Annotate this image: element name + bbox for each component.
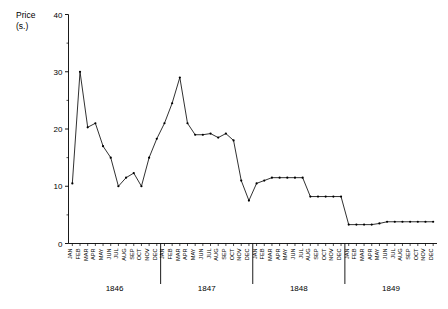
x-axis-year-label: 1846 xyxy=(106,284,124,293)
x-tick-label-month: OCT xyxy=(136,248,142,260)
x-tick-label-month: NOV xyxy=(420,248,426,260)
x-tick-label-month: APR xyxy=(90,249,96,261)
data-point xyxy=(232,139,234,141)
x-tick-label-month: JUN xyxy=(106,249,112,260)
data-point xyxy=(133,172,135,174)
data-point xyxy=(325,195,327,197)
x-axis-year-label: 1849 xyxy=(382,284,400,293)
x-tick-label-month: AUG xyxy=(397,249,403,261)
x-tick-label-month: AUG xyxy=(121,249,127,261)
data-point xyxy=(371,224,373,226)
data-point xyxy=(156,138,158,140)
data-point xyxy=(209,132,211,134)
x-tick-label-month: DEC xyxy=(428,249,434,261)
data-point xyxy=(179,76,181,78)
x-tick-label-month: JUN xyxy=(382,249,388,260)
x-tick-label-month: MAY xyxy=(190,248,196,260)
data-point xyxy=(87,126,89,128)
x-tick-label-month: SEP xyxy=(221,248,227,259)
x-tick-label-month: OCT xyxy=(321,248,327,260)
data-point xyxy=(148,157,150,159)
x-tick-label-month: AUG xyxy=(305,249,311,261)
x-tick-label-month: DEC xyxy=(336,249,342,261)
data-point xyxy=(340,195,342,197)
x-tick-label-month: APR xyxy=(275,249,281,261)
data-point xyxy=(102,145,104,147)
data-point xyxy=(217,136,219,138)
x-tick-label-month: JUL xyxy=(206,249,212,259)
price-line xyxy=(72,72,433,225)
data-point xyxy=(286,177,288,179)
x-tick-label-month: JUN xyxy=(290,249,296,260)
data-point xyxy=(432,221,434,223)
data-point xyxy=(309,195,311,197)
x-tick-label-month: JUL xyxy=(390,249,396,259)
data-point xyxy=(194,134,196,136)
x-tick-label-month: FEB xyxy=(259,248,265,259)
line-chart-plot: 010203040 JANFEBMARAPRMAYJUNJULAUGSEPOCT… xyxy=(0,0,448,309)
x-tick-label-month: SEP xyxy=(313,248,319,259)
data-point xyxy=(386,221,388,223)
x-tick-label-month: MAR xyxy=(175,249,181,261)
data-point xyxy=(294,177,296,179)
y-tick-label: 0 xyxy=(58,240,63,249)
x-tick-label-month: MAY xyxy=(374,248,380,260)
x-tick-label-month: NOV xyxy=(328,248,334,260)
data-point xyxy=(409,221,411,223)
data-point xyxy=(225,132,227,134)
chart-figure: Price (s.) 010203040 JANFEBMARAPRMAYJUNJ… xyxy=(0,0,448,309)
x-tick-label-month: AUG xyxy=(213,249,219,261)
data-point xyxy=(348,224,350,226)
x-tick-label-month: MAY xyxy=(98,248,104,260)
x-tick-label-month: APR xyxy=(367,249,373,261)
data-point xyxy=(378,222,380,224)
data-point xyxy=(240,179,242,181)
x-tick-label-month: JAN xyxy=(67,249,73,260)
data-point xyxy=(317,195,319,197)
data-point xyxy=(171,102,173,104)
x-axis-year-label: 1848 xyxy=(290,284,308,293)
x-tick-label-month: OCT xyxy=(413,248,419,260)
x-tick-label-month: DEC xyxy=(152,249,158,261)
data-point xyxy=(355,224,357,226)
x-tick-label-month: MAR xyxy=(267,249,273,261)
x-tick-label-month: JUN xyxy=(198,249,204,260)
x-tick-label-month: MAR xyxy=(359,249,365,261)
data-point xyxy=(140,185,142,187)
x-tick-label-month: JUL xyxy=(113,249,119,259)
x-axis-year-label: 1847 xyxy=(198,284,216,293)
y-tick-label: 20 xyxy=(54,125,63,134)
data-point xyxy=(263,179,265,181)
data-point xyxy=(394,221,396,223)
data-point xyxy=(94,122,96,124)
y-axis: 010203040 xyxy=(54,11,69,249)
data-point xyxy=(79,71,81,73)
x-tick-label-month: FEB xyxy=(351,248,357,259)
x-tick-label-month: NOV xyxy=(144,248,150,260)
data-point xyxy=(163,122,165,124)
x-tick-label-month: OCT xyxy=(229,248,235,260)
data-point xyxy=(417,221,419,223)
data-point xyxy=(117,185,119,187)
data-point xyxy=(332,195,334,197)
data-point xyxy=(271,177,273,179)
x-tick-label-month: SEP xyxy=(405,248,411,259)
x-tick-label-month: SEP xyxy=(129,248,135,259)
x-tick-label-month: NOV xyxy=(236,248,242,260)
x-tick-label-month: APR xyxy=(182,249,188,261)
data-point xyxy=(401,221,403,223)
data-point xyxy=(363,224,365,226)
data-point xyxy=(71,182,73,184)
data-point xyxy=(424,221,426,223)
data-point xyxy=(255,182,257,184)
x-tick-label-month: MAR xyxy=(83,249,89,261)
x-axis-month-labels: JANFEBMARAPRMAYJUNJULAUGSEPOCTNOVDECJANF… xyxy=(67,248,434,261)
y-tick-label: 40 xyxy=(54,11,63,20)
data-point xyxy=(186,122,188,124)
x-tick-label-month: JUL xyxy=(298,249,304,259)
x-tick-label-month: DEC xyxy=(244,249,250,261)
data-point xyxy=(248,199,250,201)
price-series xyxy=(71,71,434,226)
x-tick-label-month: FEB xyxy=(167,248,173,259)
data-point xyxy=(125,177,127,179)
